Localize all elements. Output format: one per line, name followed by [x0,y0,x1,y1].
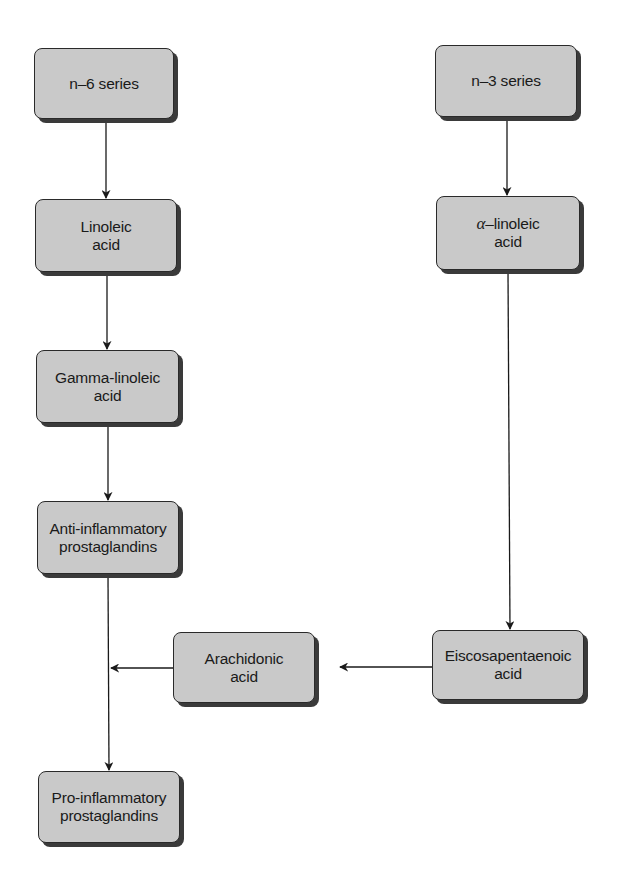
node-label: n–6 series [69,75,139,93]
node-label-line-2: prostaglandins [59,538,157,556]
node-label-line-1: Gamma-linoleic [55,369,160,387]
node-label-line-2: acid [494,665,522,683]
node-gamma-linoleic-acid: Gamma-linoleic acid [36,350,179,423]
node-eiscosapentaenoic-acid: Eiscosapentaenoic acid [432,630,584,700]
node-n6-series: n–6 series [34,48,174,119]
node-label-line-1: α–linoleic [477,215,540,233]
node-label-line-1: Arachidonic [205,650,284,668]
fatty-acid-pathway-diagram: n–6 series Linoleic acid Gamma-linoleic … [0,0,626,873]
node-label-line-2: acid [92,236,120,254]
node-label-line-1: Linoleic [81,218,132,236]
node-alpha-linoleic-acid: α–linoleic acid [436,196,580,270]
node-label-line-1: Eiscosapentaenoic [445,647,572,665]
connector-layer [0,0,626,873]
node-label-line-2: acid [94,387,122,405]
node-label: n–3 series [471,72,541,90]
alpha-symbol: α [477,214,486,233]
node-label-line-2: acid [230,668,258,686]
node-label-line-2: acid [494,233,522,251]
node-n3-series: n–3 series [435,45,577,117]
node-pro-inflammatory-prostaglandins: Pro-inflammatory prostaglandins [38,771,180,843]
node-label-line-2: prostaglandins [60,807,158,825]
edge-anti-to-pro [108,576,109,770]
node-label-line-1: Pro-inflammatory [52,789,167,807]
node-linoleic-acid: Linoleic acid [35,199,177,272]
node-arachidonic-acid: Arachidonic acid [173,632,315,703]
node-label-line-1: Anti-inflammatory [49,520,166,538]
edge-alpha-to-epa [508,272,510,629]
node-anti-inflammatory-prostaglandins: Anti-inflammatory prostaglandins [37,501,179,574]
node-label-text: –linoleic [485,215,539,232]
